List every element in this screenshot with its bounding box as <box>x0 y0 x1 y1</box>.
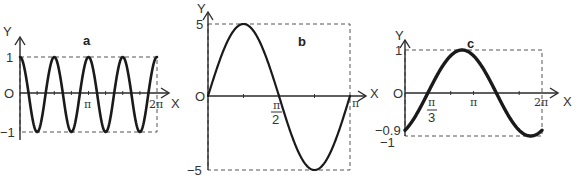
x-tick-pi-a: π <box>84 98 91 111</box>
x-tick-pi-b: π <box>352 97 359 110</box>
x-axis-label-c: X <box>563 94 572 109</box>
origin-label-a: O <box>4 86 14 101</box>
y-tick-5-b: 5 <box>196 17 203 32</box>
y-tick-1-c: 1 <box>395 43 402 58</box>
x-tick-2pi-a: 2π <box>149 98 163 111</box>
y-tick-neg1-a: −1 <box>0 125 15 140</box>
y-tick-neg1-c: −1 <box>380 135 395 150</box>
x-tick-third-pi-den-c: 3 <box>428 110 435 125</box>
x-tick-2pi-c: 2π <box>534 96 548 109</box>
x-axis-label-a: X <box>171 96 180 111</box>
y-axis-label-a: Y <box>3 24 12 39</box>
curve-b <box>208 24 350 170</box>
graph-b: Y b 5 O −5 π 2 π <box>187 1 366 178</box>
graph-c: X Y c 1 O −0.9 −1 π 3 π 2π X <box>370 28 572 150</box>
origin-label-b: O <box>195 89 205 104</box>
x-tick-third-pi-num-c: π <box>428 96 435 109</box>
graph-a: Y a 1 O −1 π 2π X <box>0 24 180 140</box>
origin-label-c: O <box>393 86 403 101</box>
x-tick-half-pi-den-b: 2 <box>272 112 279 127</box>
y-axis-label-c: Y <box>395 28 404 43</box>
figure-canvas: Y a 1 O −1 π 2π X Y b 5 O −5 π 2 π X <box>0 0 579 178</box>
stray-x-label: X <box>370 86 379 101</box>
y-tick-neg5-b: −5 <box>187 163 202 178</box>
graph-title-c: c <box>467 36 474 51</box>
graph-title-a: a <box>83 33 91 48</box>
graph-title-b: b <box>298 34 306 49</box>
x-tick-half-pi-num-b: π <box>273 99 280 112</box>
y-tick-1-a: 1 <box>6 50 13 65</box>
y-axis-label-b: Y <box>197 1 206 16</box>
x-tick-pi-c: π <box>470 96 477 109</box>
